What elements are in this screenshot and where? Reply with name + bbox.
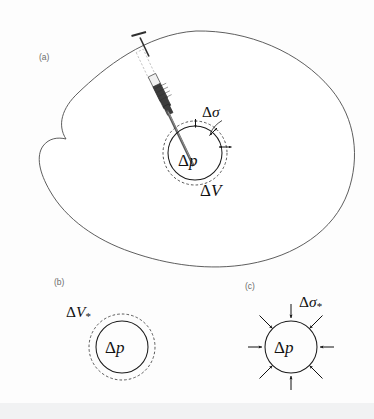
traction-arrow-sw bbox=[260, 366, 273, 379]
panel-c-group: (c) Δσ* bbox=[245, 281, 334, 390]
host-body-outline bbox=[39, 31, 354, 267]
panel-a-group: (a) bbox=[39, 31, 355, 267]
traction-arrow-nw bbox=[260, 316, 273, 329]
traction-arrow-ne bbox=[310, 316, 323, 329]
panel-a-tag: (a) bbox=[39, 52, 50, 62]
panel-c-delta-sigma-star-label: Δσ* bbox=[299, 293, 322, 312]
figure-container: (a) bbox=[0, 0, 374, 419]
panel-b-group: (b) ΔV* Δp bbox=[54, 277, 155, 380]
panel-c-tag: (c) bbox=[245, 281, 255, 291]
traction-arrow-se bbox=[310, 366, 323, 379]
figure-canvas: (a) bbox=[0, 0, 374, 419]
panel-b-delta-p-label: Δp bbox=[105, 338, 124, 357]
panel-a-delta-v-label: ΔV bbox=[200, 181, 224, 200]
panel-c-delta-p-label: Δp bbox=[274, 338, 293, 357]
panel-a-delta-p-label: Δp bbox=[178, 151, 197, 170]
panel-b-delta-v-star-label: ΔV* bbox=[66, 303, 91, 322]
plunger-thumb-rest bbox=[132, 32, 147, 36]
panel-a-delta-sigma-label: Δσ bbox=[202, 103, 221, 120]
panel-b-tag: (b) bbox=[54, 277, 65, 287]
